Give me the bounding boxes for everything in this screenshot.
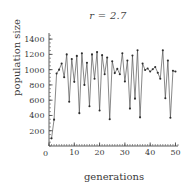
- data-point: [88, 105, 90, 107]
- chart-figure: r = 2.7 population size generations 2004…: [0, 0, 188, 193]
- y-tick-label: 1200: [24, 50, 44, 59]
- data-point: [73, 81, 75, 83]
- x-tick-label: 0: [43, 149, 48, 158]
- data-point: [157, 72, 159, 74]
- data-point: [147, 67, 149, 69]
- plot-area: 200400600800100012001400 01020304050: [0, 0, 188, 193]
- data-point: [126, 59, 128, 61]
- data-point: [144, 69, 146, 71]
- data-point: [53, 119, 55, 121]
- y-tick-label: 1000: [24, 66, 44, 75]
- data-point: [76, 55, 78, 57]
- data-point: [91, 53, 93, 55]
- data-point: [131, 54, 133, 56]
- y-tick-label: 800: [29, 81, 44, 90]
- data-point: [50, 137, 52, 139]
- data-point: [114, 72, 116, 74]
- data-point: [61, 62, 63, 64]
- data-point: [121, 52, 123, 54]
- data-point: [93, 78, 95, 80]
- data-point: [109, 118, 111, 120]
- series-polyline: [52, 50, 176, 138]
- data-point: [58, 69, 60, 71]
- x-tick-label: 20: [94, 148, 104, 157]
- data-point: [162, 49, 164, 51]
- data-point: [56, 72, 58, 74]
- data-point: [106, 56, 108, 58]
- data-point: [124, 80, 126, 82]
- data-point: [78, 112, 80, 114]
- data-point: [134, 98, 136, 100]
- data-point: [149, 71, 151, 73]
- y-axis: 200400600800100012001400: [24, 33, 52, 146]
- data-point: [101, 54, 103, 56]
- data-point: [167, 59, 169, 61]
- y-tick-label: 600: [29, 96, 44, 105]
- x-axis: 01020304050: [43, 143, 181, 159]
- data-point: [96, 51, 98, 53]
- data-point: [68, 101, 70, 103]
- data-point: [164, 97, 166, 99]
- data-point: [129, 108, 131, 110]
- data-point: [142, 62, 144, 64]
- data-point: [66, 53, 68, 55]
- data-point: [111, 60, 113, 62]
- y-tick-label: 1400: [24, 35, 44, 44]
- data-point: [71, 58, 73, 60]
- x-tick-label: 30: [120, 148, 130, 157]
- x-tick-label: 40: [145, 148, 155, 157]
- data-point: [154, 66, 156, 68]
- y-tick-label: 400: [29, 111, 44, 120]
- data-point: [174, 71, 176, 73]
- data-point: [81, 52, 83, 54]
- y-tick-label: 200: [29, 127, 44, 136]
- data-point: [139, 116, 141, 118]
- data-point: [159, 78, 161, 80]
- data-point: [136, 49, 138, 51]
- data-series: [50, 49, 176, 139]
- data-point: [99, 109, 101, 111]
- data-point: [86, 62, 88, 64]
- data-point: [63, 76, 65, 78]
- x-tick-label: 50: [170, 148, 180, 157]
- data-point: [152, 68, 154, 70]
- data-point: [172, 70, 174, 72]
- data-point: [169, 117, 171, 119]
- data-point: [104, 73, 106, 75]
- data-point: [119, 73, 121, 75]
- x-tick-label: 10: [69, 148, 79, 157]
- data-point: [83, 84, 85, 86]
- data-point: [116, 68, 118, 70]
